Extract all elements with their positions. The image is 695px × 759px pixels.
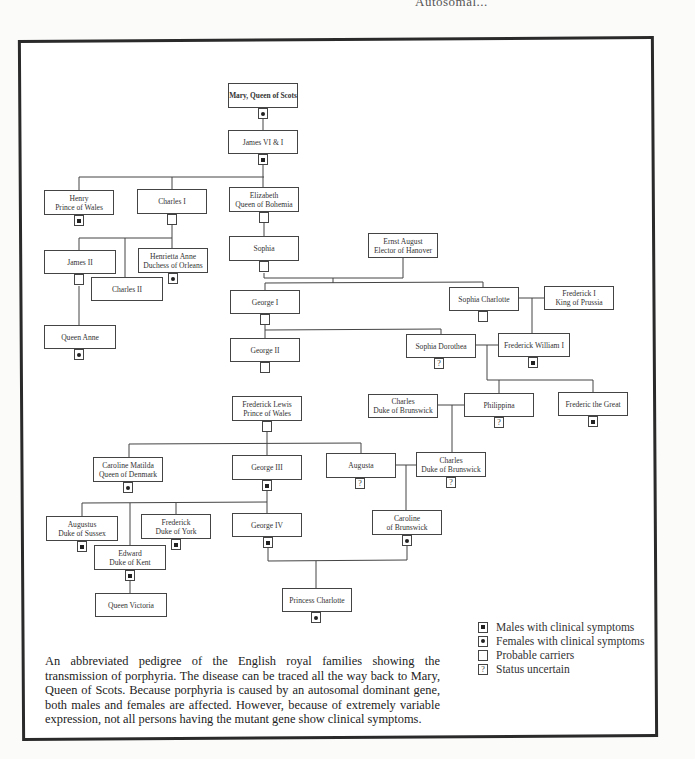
legend-item: Males with clinical symptoms <box>478 620 645 634</box>
person-name: Henry <box>70 194 89 203</box>
status-male-affected-icon <box>528 357 538 368</box>
person-queen-anne: Queen Anne <box>44 325 116 349</box>
person-sophia: Sophia <box>229 236 299 261</box>
person-name: George I <box>252 298 279 307</box>
female-affected-icon <box>478 636 488 647</box>
person-name: Augustus <box>68 520 97 529</box>
person-augusta: Augusta <box>326 453 396 478</box>
person-princess-charlotte: Princess Charlotte <box>282 588 352 612</box>
person-title: Duchess of Orleans <box>143 261 202 270</box>
person-title: Duke of Sussex <box>58 529 106 538</box>
status-male-affected-icon <box>263 537 273 548</box>
status-carrier-icon <box>167 214 177 225</box>
person-name: Philippina <box>483 401 514 410</box>
person-name: Ernst August <box>383 237 422 246</box>
person-name: Frederic the Great <box>565 400 620 409</box>
person-name: Sophia <box>253 244 274 253</box>
person-edward: EdwardDuke of Kent <box>94 545 166 570</box>
status-male-affected-icon <box>258 154 268 165</box>
person-george-ii: George II <box>230 338 300 362</box>
status-female-affected-icon <box>123 482 133 493</box>
person-name: Henrietta Anne <box>150 252 196 261</box>
person-title: Prince of Wales <box>55 203 103 212</box>
person-henry: HenryPrince of Wales <box>44 190 114 215</box>
status-male-affected-icon <box>262 480 272 491</box>
legend-label: Probable carriers <box>496 649 574 661</box>
person-ernst-august: Ernst AugustElector of Hanover <box>368 233 438 258</box>
person-charles-ii: Charles II <box>91 277 163 301</box>
person-name: Sophia Dorothea <box>415 342 466 351</box>
person-name: James II <box>67 258 93 267</box>
person-title: Prince of Wales <box>243 409 291 418</box>
person-frederick-duke-of-york: FrederickDuke of York <box>141 514 211 539</box>
person-charles-i: Charles I <box>137 189 207 214</box>
person-george-iv: George IV <box>232 513 302 537</box>
person-name: George IV <box>251 521 283 530</box>
person-caroline-of-brunswick: Carolineof Brunswick <box>372 510 442 535</box>
person-name: Frederick I <box>562 289 596 298</box>
person-frederick-william-i: Frederick William I <box>498 333 570 357</box>
person-queen-victoria: Queen Victoria <box>95 593 167 617</box>
person-name: Caroline Matilda <box>102 461 154 470</box>
person-philippina: Philippina <box>464 393 534 417</box>
person-charles-duke-of-brunswick-elder: CharlesDuke of Brunswick <box>368 394 438 418</box>
person-name: Mary, Queen of Scots <box>229 91 297 100</box>
status-carrier-icon <box>259 261 269 272</box>
status-female-affected-icon <box>258 108 268 119</box>
person-caroline-matilda: Caroline MatildaQueen of Denmark <box>93 457 163 482</box>
person-title: Duke of Brunswick <box>421 465 480 474</box>
person-name: Frederick <box>161 518 190 527</box>
person-title: Duke of Kent <box>109 558 150 567</box>
person-augustus: AugustusDuke of Sussex <box>46 516 118 541</box>
person-title: of Brunswick <box>386 523 427 532</box>
legend-item: Females with clinical symptoms <box>478 634 645 648</box>
status-carrier-icon <box>259 212 269 223</box>
person-elizabeth: ElizabethQueen of Bohemia <box>229 187 299 212</box>
person-name: George II <box>250 346 279 355</box>
legend-item: ? Status uncertain <box>478 662 645 676</box>
person-name: George III <box>251 463 283 472</box>
uncertain-icon: ? <box>478 664 488 675</box>
status-carrier-icon <box>478 311 488 322</box>
person-title: Queen of Denmark <box>99 470 157 479</box>
person-george-i: George I <box>230 290 300 314</box>
person-james-vi: James VI & I <box>228 130 298 154</box>
person-name: Charles <box>439 456 462 465</box>
legend-item: Probable carriers <box>478 648 645 662</box>
person-charles-duke-of-brunswick-younger: CharlesDuke of Brunswick <box>416 452 486 477</box>
person-name: Caroline <box>394 514 420 523</box>
status-carrier-icon <box>260 314 270 325</box>
status-male-affected-icon <box>588 416 598 427</box>
carrier-icon <box>478 650 488 661</box>
person-frederic-the-great: Frederic the Great <box>558 392 628 416</box>
status-female-affected-icon <box>311 612 321 623</box>
person-name: Elizabeth <box>250 191 279 200</box>
legend-label: Status uncertain <box>496 663 570 675</box>
status-carrier-icon <box>262 421 272 432</box>
person-name: Charles I <box>158 197 186 206</box>
person-name: Edward <box>118 549 142 558</box>
status-female-affected-icon <box>74 349 84 360</box>
person-title: Elector of Hanover <box>374 246 432 255</box>
person-name: Princess Charlotte <box>289 596 344 605</box>
person-james-ii: James II <box>44 250 116 274</box>
legend-label: Females with clinical symptoms <box>496 635 645 647</box>
person-name: Charles II <box>112 285 142 294</box>
status-carrier-icon <box>74 274 84 285</box>
status-uncertain-icon: ? <box>446 477 456 488</box>
person-name: Frederick Lewis <box>242 400 292 409</box>
person-sophia-dorothea: Sophia Dorothea <box>406 334 476 358</box>
person-name: Queen Victoria <box>108 601 154 610</box>
figure-caption: An abbreviated pedigree of the English r… <box>45 654 440 727</box>
status-male-affected-icon <box>125 570 135 581</box>
person-name: James VI & I <box>243 138 284 147</box>
legend: Males with clinical symptoms Females wit… <box>478 620 645 676</box>
person-name: Augusta <box>348 461 373 470</box>
person-name: Sophia Charlotte <box>458 295 509 304</box>
person-george-iii: George III <box>232 455 302 480</box>
person-mary: Mary, Queen of Scots <box>228 83 298 108</box>
person-name: Frederick William I <box>504 341 564 350</box>
status-female-affected-icon <box>168 273 178 284</box>
person-name: Queen Anne <box>61 333 99 342</box>
status-male-affected-icon <box>171 539 181 550</box>
